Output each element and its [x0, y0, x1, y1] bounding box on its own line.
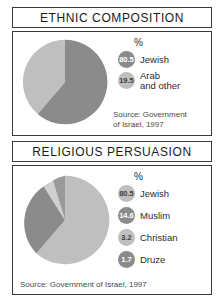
legend-item-jewish: 80.5 Jewish [118, 51, 169, 68]
panel-title-religious: RELIGIOUS PERSUASION [32, 145, 191, 159]
pie-chart-ethnic [21, 38, 109, 126]
badge-value-christian: 3.2 [118, 229, 135, 246]
badge-value-muslim: 14.6 [118, 207, 135, 224]
badge-value-jewish: 80.5 [118, 185, 135, 202]
badge-value-druze: 1.7 [118, 251, 135, 268]
legend-item-druze: 1.7 Druze [118, 251, 165, 268]
page-title: ETHNIC COMPOSITION [40, 11, 184, 25]
badge-value-jewish: 80.5 [118, 51, 135, 68]
source-note-religious: Source: Government of Israel, 1997 [20, 280, 147, 290]
source-note-ethnic: Source: Government of Israel, 1997 [113, 110, 205, 130]
legend-label-jewish: Jewish [140, 189, 169, 199]
percent-symbol-religious: % [134, 171, 143, 182]
percent-symbol-ethnic: % [134, 37, 143, 48]
legend-item-christian: 3.2 Christian [118, 229, 178, 246]
legend-label-jewish: Jewish [140, 55, 169, 65]
legend-item-arab-and-other: 19.5 Arab and other [118, 71, 180, 91]
legend-label-muslim: Muslim [140, 211, 170, 221]
panel-title-box-ethnic: ETHNIC COMPOSITION [12, 7, 212, 28]
legend-label-christian: Christian [140, 233, 178, 243]
legend-label-arab-and-other: Arab and other [140, 71, 180, 91]
panel-body-ethnic: % 80.5 Jewish 19.5 Arab and other Source… [12, 31, 212, 136]
infographic-root: ETHNIC COMPOSITION % 80.5 Jewish 19.5 [0, 0, 224, 297]
panel-body-religious: % 80.5 Jewish 14.6 Muslim 3.2 Christian … [12, 165, 212, 295]
panel-ethnic-composition: ETHNIC COMPOSITION % 80.5 Jewish 19.5 [12, 7, 212, 136]
pie-chart-ethnic-container [13, 32, 116, 135]
legend-label-druze: Druze [140, 255, 165, 265]
legend-religious: % 80.5 Jewish 14.6 Muslim 3.2 Christian … [116, 166, 211, 294]
legend-item-jewish: 80.5 Jewish [118, 185, 169, 202]
legend-item-muslim: 14.6 Muslim [118, 207, 170, 224]
panel-title-box-religious: RELIGIOUS PERSUASION [12, 141, 212, 162]
badge-value-arab-and-other: 19.5 [118, 72, 135, 89]
pie-chart-religious-container [13, 166, 116, 294]
panel-religious-persuasion: RELIGIOUS PERSUASION % 80.5 [12, 141, 212, 295]
pie-chart-religious [19, 174, 111, 266]
